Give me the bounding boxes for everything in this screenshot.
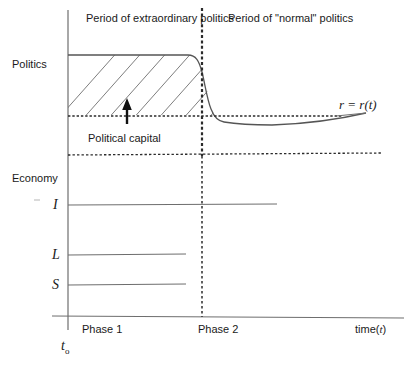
- axis-label-time: time(t): [355, 323, 386, 336]
- time-label-suffix: ): [383, 323, 387, 335]
- series-line-I: [68, 204, 277, 205]
- series-label-S: S: [52, 277, 59, 293]
- time-label-prefix: time(: [355, 323, 379, 335]
- label-phase-2: Phase 2: [198, 323, 238, 336]
- label-period-extraordinary-politics: Period of extraordinary politics: [86, 12, 206, 25]
- axis-label-economy: Economy: [12, 172, 58, 185]
- label-phase-1: Phase 1: [82, 323, 122, 336]
- label-political-capital: Political capital: [88, 132, 161, 145]
- series-label-L: L: [52, 247, 60, 263]
- diagram-canvas: [0, 0, 409, 374]
- series-line-L: [68, 254, 186, 255]
- series-label-I: I: [53, 197, 58, 213]
- axis-label-politics: Politics: [12, 58, 47, 71]
- series-line-S: [68, 284, 186, 285]
- political-capital-arrow-icon: [122, 98, 132, 124]
- panel-separator-dashed: [68, 153, 381, 155]
- label-period-normal-politics: Period of "normal" politics: [228, 12, 348, 25]
- x-axis-time: [52, 316, 404, 318]
- label-r-equals-r-of-t: r = r(t): [339, 97, 377, 113]
- t-zero-subscript: o: [65, 346, 70, 356]
- political-economy-diagram: Period of extraordinary politics Period …: [0, 0, 409, 374]
- label-t-zero: to: [61, 338, 69, 356]
- r-of-t-curve: [68, 55, 366, 125]
